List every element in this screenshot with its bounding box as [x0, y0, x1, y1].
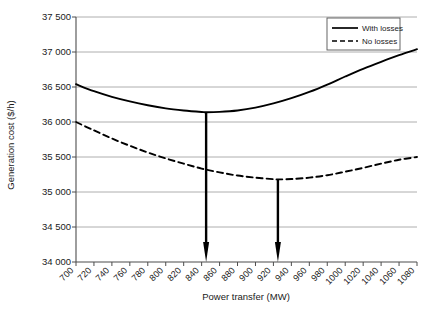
y-tick-label-35500: 35 500: [42, 151, 71, 162]
generation-cost-vs-power-transfer-chart: 34 00034 50035 00035 50036 00036 50037 0…: [0, 0, 431, 316]
legend-label-with-losses: With losses: [362, 24, 403, 33]
y-tick-label-36000: 36 000: [42, 116, 71, 127]
y-tick-label-37000: 37 000: [42, 46, 71, 57]
y-tick-label-36500: 36 500: [42, 81, 71, 92]
legend-label-no-losses: No losses: [362, 37, 397, 46]
y-tick-label-37500: 37 500: [42, 11, 71, 22]
x-axis-title: Power transfer (MW): [202, 291, 290, 302]
chart-figure: 34 00034 50035 00035 50036 00036 50037 0…: [0, 0, 431, 316]
plot-background: [76, 17, 417, 262]
y-tick-label-35000: 35 000: [42, 186, 71, 197]
chart-legend: With losses No losses: [327, 18, 403, 50]
y-tick-label-34500: 34 500: [42, 221, 71, 232]
y-axis-title: Generation cost ($/h): [5, 100, 16, 189]
plot-area: [76, 17, 417, 266]
